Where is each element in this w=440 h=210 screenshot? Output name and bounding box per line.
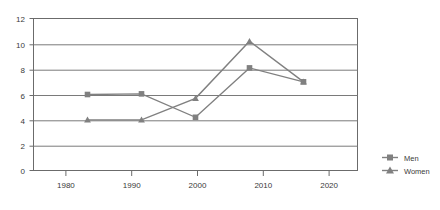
y-tick-label-8: 8 <box>21 66 26 75</box>
legend-label-men: Men <box>404 154 419 163</box>
y-tick-label-12: 12 <box>16 15 25 24</box>
x-tick-label-1980: 1980 <box>57 181 75 190</box>
legend-item-men[interactable]: Men <box>382 154 419 163</box>
chart-canvas: 12 10 8 6 4 2 0 1980 1990 2000 2010 2020 <box>0 0 440 210</box>
data-point-square-marker-icon <box>193 115 199 121</box>
y-tick-label-4: 4 <box>21 117 26 126</box>
y-tick-label-0: 0 <box>21 167 26 176</box>
y-tick-label-6: 6 <box>21 92 26 101</box>
legend-label-women: Women <box>404 167 430 176</box>
x-tick-label-1990: 1990 <box>123 181 141 190</box>
x-tick-label-2000: 2000 <box>189 181 207 190</box>
y-tick-label-10: 10 <box>16 41 25 50</box>
plot-area-frame <box>34 19 358 171</box>
y-axis-ticks <box>30 19 34 171</box>
legend-item-women[interactable]: Women <box>382 167 430 176</box>
x-axis-ticks <box>66 171 329 177</box>
x-axis-labels: 1980 1990 2000 2010 2020 <box>57 181 339 190</box>
data-point-square-marker-icon <box>85 92 91 98</box>
line-chart: 12 10 8 6 4 2 0 1980 1990 2000 2010 2020 <box>0 0 440 210</box>
x-tick-label-2020: 2020 <box>320 181 338 190</box>
y-tick-label-2: 2 <box>21 142 26 151</box>
data-point-square-marker-icon <box>139 91 145 97</box>
legend: Men Women <box>382 154 430 176</box>
legend-square-marker-icon <box>387 155 393 161</box>
data-point-square-marker-icon <box>247 65 253 71</box>
y-axis-labels: 12 10 8 6 4 2 0 <box>16 15 25 176</box>
x-tick-label-2010: 2010 <box>254 181 272 190</box>
